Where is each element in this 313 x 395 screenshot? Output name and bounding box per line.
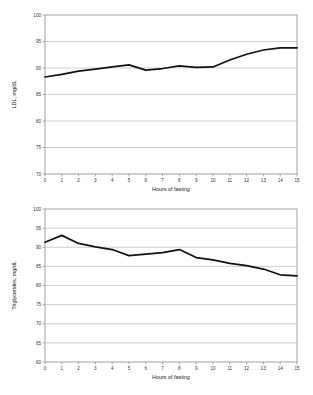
x-tick-label: 11 bbox=[227, 178, 232, 183]
x-tick-label: 14 bbox=[278, 178, 284, 183]
x-tick-label: 13 bbox=[261, 178, 267, 183]
data-series-line-tg bbox=[45, 235, 297, 276]
x-tick-label: 8 bbox=[178, 366, 181, 371]
x-tick-label: 6 bbox=[145, 366, 148, 371]
x-tick-label: 12 bbox=[244, 178, 250, 183]
y-tick-label: 90 bbox=[36, 66, 42, 71]
y-tick-label: 95 bbox=[36, 226, 42, 231]
y-tick-label: 100 bbox=[33, 13, 41, 18]
x-tick-label: 15 bbox=[294, 178, 300, 183]
x-tick-label: 5 bbox=[128, 178, 131, 183]
x-tick-label: 14 bbox=[278, 366, 284, 371]
x-tick-label: 12 bbox=[244, 366, 250, 371]
chart-triglycerides: 6065707580859095100012345678910111213141… bbox=[0, 197, 313, 395]
x-tick-label: 1 bbox=[61, 366, 64, 371]
x-tick-label: 2 bbox=[77, 178, 80, 183]
x-tick-label: 9 bbox=[195, 366, 198, 371]
y-tick-label: 60 bbox=[36, 360, 42, 365]
y-tick-label: 75 bbox=[36, 145, 42, 150]
y-tick-label: 95 bbox=[36, 39, 42, 44]
y-tick-label: 75 bbox=[36, 302, 42, 307]
x-tick-label: 10 bbox=[210, 178, 216, 183]
y-tick-label: 80 bbox=[36, 283, 42, 288]
y-tick-label: 65 bbox=[36, 341, 42, 346]
x-tick-label: 5 bbox=[128, 366, 131, 371]
x-axis-title: Hours of fasting bbox=[152, 186, 190, 192]
x-tick-label: 8 bbox=[178, 178, 181, 183]
x-tick-label: 2 bbox=[77, 366, 80, 371]
x-tick-label: 1 bbox=[61, 178, 64, 183]
data-series-line-ldl bbox=[45, 48, 297, 77]
y-tick-label: 85 bbox=[36, 92, 42, 97]
y-tick-label: 70 bbox=[36, 172, 42, 177]
y-axis-title: LDL, mg/dL bbox=[11, 81, 17, 109]
x-tick-label: 9 bbox=[195, 178, 198, 183]
y-tick-label: 100 bbox=[33, 207, 41, 212]
x-tick-label: 4 bbox=[111, 366, 114, 371]
x-tick-label: 4 bbox=[111, 178, 114, 183]
chart-ldl: 7075808590951000123456789101112131415Hou… bbox=[0, 0, 313, 197]
y-tick-label: 80 bbox=[36, 119, 42, 124]
y-tick-label: 85 bbox=[36, 264, 42, 269]
y-tick-label: 70 bbox=[36, 321, 42, 326]
y-tick-label: 90 bbox=[36, 245, 42, 250]
x-axis-title: Hours of fasting bbox=[152, 374, 190, 380]
x-tick-label: 10 bbox=[210, 366, 216, 371]
x-tick-label: 7 bbox=[161, 178, 164, 183]
x-tick-label: 3 bbox=[94, 366, 97, 371]
x-tick-label: 15 bbox=[294, 366, 300, 371]
chart-canvas-tg: 6065707580859095100012345678910111213141… bbox=[0, 197, 313, 395]
x-tick-label: 13 bbox=[261, 366, 267, 371]
y-axis-title: Triglycerides, mg/dL bbox=[11, 261, 17, 309]
x-tick-label: 0 bbox=[44, 366, 47, 371]
x-tick-label: 3 bbox=[94, 178, 97, 183]
x-tick-label: 7 bbox=[161, 366, 164, 371]
x-tick-label: 6 bbox=[145, 178, 148, 183]
x-tick-label: 11 bbox=[227, 366, 232, 371]
chart-canvas-ldl: 7075808590951000123456789101112131415Hou… bbox=[0, 0, 313, 197]
x-tick-label: 0 bbox=[44, 178, 47, 183]
